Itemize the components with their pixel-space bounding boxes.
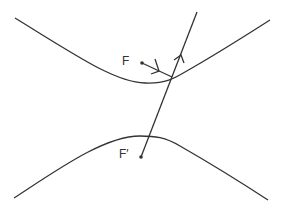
focus-f-label: F — [122, 54, 129, 68]
focus-f-prime-point — [139, 155, 143, 159]
incident-arrow-icon — [151, 59, 159, 74]
upper-hyperbola-branch — [15, 18, 270, 83]
focus-f-prime-label: F′ — [119, 147, 129, 161]
lower-hyperbola-branch — [14, 136, 268, 200]
hyperbola-diagram — [0, 0, 285, 212]
reflected-ray-line — [141, 12, 197, 157]
focus-f-point — [140, 61, 144, 65]
